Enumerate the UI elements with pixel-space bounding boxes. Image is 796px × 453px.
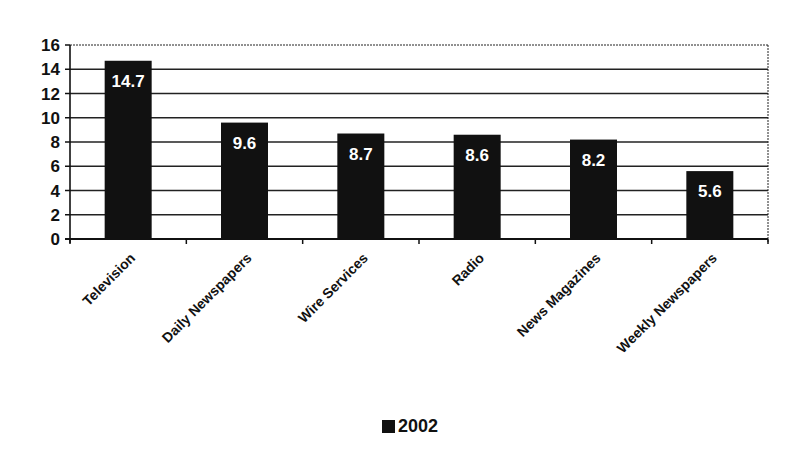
y-tick-label: 12 [41, 85, 60, 104]
y-tick-label: 0 [51, 230, 60, 249]
legend-label: 2002 [398, 416, 438, 437]
y-tick-label: 4 [51, 182, 61, 201]
x-axis-label: Wire Services [295, 250, 371, 326]
x-axis-label: Weekly Newspapers [614, 250, 720, 356]
y-tick-label: 6 [51, 157, 60, 176]
bars: 14.79.68.78.68.25.6 [105, 61, 734, 239]
gridlines [70, 45, 768, 215]
x-axis-label: Daily Newspapers [159, 250, 255, 346]
bar-chart: 0246810121416 14.79.68.78.68.25.6 Televi… [0, 0, 796, 453]
y-tick-label: 8 [51, 133, 60, 152]
legend: 2002 [382, 416, 438, 437]
x-axis-labels: TelevisionDaily NewspapersWire ServicesR… [79, 250, 720, 356]
bar-value-label: 8.6 [465, 146, 489, 165]
y-axis-ticks: 0246810121416 [41, 36, 70, 249]
legend-swatch-icon [382, 420, 395, 433]
y-tick-label: 2 [51, 206, 60, 225]
bar-value-label: 8.2 [582, 151, 606, 170]
bar-value-label: 5.6 [698, 182, 722, 201]
x-axis-label: News Magazines [514, 250, 604, 340]
y-tick-label: 16 [41, 36, 60, 55]
bar-value-label: 9.6 [233, 134, 257, 153]
bar-value-label: 8.7 [349, 145, 373, 164]
y-tick-label: 10 [41, 109, 60, 128]
x-axis-label: Radio [448, 250, 487, 289]
y-tick-label: 14 [41, 60, 60, 79]
x-axis-label: Television [79, 250, 138, 309]
bar-value-label: 14.7 [112, 72, 145, 91]
